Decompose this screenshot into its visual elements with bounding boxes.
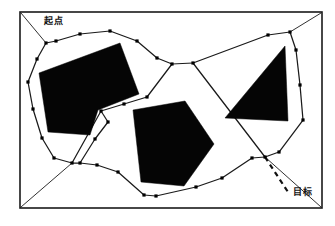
roadmap-node <box>116 170 119 173</box>
roadmap-node <box>40 136 43 139</box>
roadmap-node <box>93 137 96 140</box>
roadmap-node <box>26 80 29 83</box>
roadmap-node <box>170 62 173 65</box>
roadmap-node <box>154 194 157 197</box>
roadmap-node <box>70 161 73 164</box>
figure-root: 起点 目标 <box>0 0 335 226</box>
goal-label: 目标 <box>293 188 312 197</box>
roadmap-node <box>288 30 291 33</box>
roadmap-node <box>277 150 280 153</box>
roadmap-node <box>191 61 194 64</box>
roadmap-node <box>135 39 138 42</box>
roadmap-node <box>142 193 145 196</box>
roadmap-node <box>52 156 55 159</box>
roadmap-node <box>155 56 158 59</box>
roadmap-node <box>145 95 148 98</box>
roadmap-node <box>99 109 102 112</box>
roadmap-node <box>294 48 297 51</box>
roadmap-node <box>122 102 125 105</box>
roadmap-node <box>31 107 34 110</box>
roadmap-node <box>35 57 38 60</box>
roadmap-node <box>108 29 111 32</box>
roadmap-node <box>301 118 304 121</box>
roadmap-node <box>78 32 81 35</box>
roadmap-node <box>95 163 98 166</box>
roadmap-node <box>250 156 253 159</box>
roadmap-node <box>220 176 223 179</box>
roadmap-node <box>298 83 301 86</box>
roadmap-node <box>44 41 47 44</box>
roadmap-node <box>78 161 81 164</box>
roadmap-node <box>106 120 109 123</box>
roadmap-node <box>263 155 266 158</box>
roadmap-node <box>194 185 197 188</box>
roadmap-diagram <box>0 0 335 226</box>
start-label: 起点 <box>44 17 63 26</box>
roadmap-node <box>54 39 57 42</box>
roadmap-node <box>266 33 269 36</box>
